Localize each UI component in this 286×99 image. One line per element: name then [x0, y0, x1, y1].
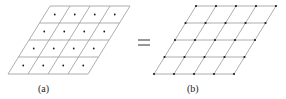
lattice-dot [153, 73, 155, 75]
lattice-dot [233, 73, 235, 75]
lattice-dot [93, 48, 95, 50]
lattice-dot [103, 31, 105, 33]
lattice-dot [184, 22, 186, 24]
lattice-dot [243, 56, 245, 58]
lattice-dot [203, 56, 205, 58]
lattice-dot [255, 5, 257, 7]
lattice-dot [43, 31, 45, 33]
equals-sign [138, 40, 150, 45]
lattice-dot [244, 22, 246, 24]
lattice-dot [163, 56, 165, 58]
lattice-dot [195, 5, 197, 7]
lattice-dot [173, 73, 175, 75]
lattice-dot [215, 5, 217, 7]
lattice-dot [83, 31, 85, 33]
lattice-dot [63, 31, 65, 33]
lattice-dot [193, 73, 195, 75]
lattice-dot [254, 39, 256, 41]
lattice-dot [204, 22, 206, 24]
panel-a-label: (a) [38, 84, 49, 94]
lattice-dot [62, 65, 64, 67]
lattice-dot [224, 22, 226, 24]
lattice-dot [183, 56, 185, 58]
lattice-dot [42, 65, 44, 67]
lattice-dot [53, 48, 55, 50]
lattice-dot [264, 22, 266, 24]
lattice-dot [54, 14, 56, 16]
lattice-dot [275, 5, 277, 7]
lattice-dot [234, 39, 236, 41]
lattice-dot [235, 5, 237, 7]
lattice-dot [74, 14, 76, 16]
panel-b-label: (b) [187, 84, 199, 94]
lattice-dot [213, 73, 215, 75]
panel-b-vertex-grid [153, 5, 277, 75]
lattice-dot [174, 39, 176, 41]
panel-a-cell-center-grid [8, 6, 130, 74]
lattice-dot [33, 48, 35, 50]
lattice-dot [94, 14, 96, 16]
lattice-dot [194, 39, 196, 41]
lattice-dot [214, 39, 216, 41]
lattice-dot [223, 56, 225, 58]
lattice-dot [82, 65, 84, 67]
lattice-dot [22, 65, 24, 67]
lattice-dot [114, 14, 116, 16]
lattice-dot [73, 48, 75, 50]
